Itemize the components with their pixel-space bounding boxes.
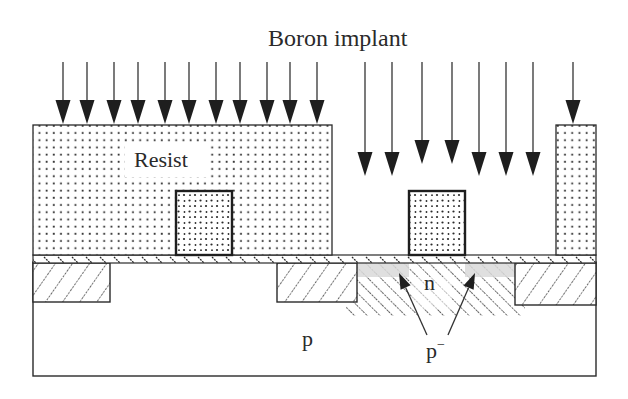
poly-gate-left xyxy=(176,191,232,255)
shallow-surface-band-left xyxy=(357,263,409,277)
implant-arrow-icon xyxy=(499,62,514,176)
implant-arrow-icon xyxy=(310,62,325,124)
implant-arrow-icon xyxy=(445,62,460,164)
implant-arrow-icon xyxy=(56,62,71,124)
p-minus-superscript: − xyxy=(437,337,445,352)
n-region-label: n xyxy=(424,272,435,294)
implant-arrow-icon xyxy=(107,62,122,124)
cross-section-figure xyxy=(0,0,628,399)
resist-label: Resist xyxy=(134,149,188,171)
p-minus-implant-region xyxy=(346,263,525,316)
implant-arrow-icon xyxy=(209,62,224,124)
implant-arrow-icon xyxy=(415,62,430,164)
implant-arrow-icon xyxy=(131,62,146,124)
implant-arrow-icon xyxy=(566,62,581,124)
gate-oxide-layer xyxy=(33,255,596,263)
implant-arrow-icon xyxy=(472,62,487,176)
implant-arrow-icon xyxy=(182,62,197,124)
title-boron-implant: Boron implant xyxy=(268,26,407,50)
implant-arrow-icon xyxy=(385,62,400,176)
implant-arrow-icon xyxy=(526,62,541,176)
implant-arrow-icon xyxy=(358,62,373,176)
field-oxide-left xyxy=(33,263,110,302)
p-minus-base: p xyxy=(426,338,437,363)
implant-arrow-icon xyxy=(80,62,95,124)
field-oxide-middle xyxy=(277,263,357,302)
resist-block-right xyxy=(556,125,596,255)
implant-arrow-icon xyxy=(233,62,248,124)
field-oxide-right xyxy=(515,263,596,305)
implant-arrow-icon xyxy=(158,62,173,124)
ion-implant-diagram: Boron implant Resist n p p− xyxy=(0,0,628,399)
p-substrate-label: p xyxy=(302,328,313,350)
implant-arrow-icon xyxy=(260,62,275,124)
shallow-surface-band-right xyxy=(465,263,515,277)
poly-gate-right xyxy=(409,191,465,255)
p-minus-label: p− xyxy=(426,338,445,362)
implant-arrow-icon xyxy=(283,62,298,124)
